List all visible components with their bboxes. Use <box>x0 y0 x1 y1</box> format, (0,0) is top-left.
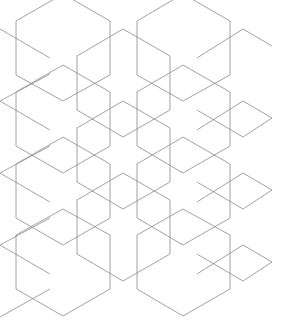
hexagon-outline <box>137 0 230 101</box>
hexagon-pattern-canvas <box>0 0 281 323</box>
pattern-line <box>0 146 50 173</box>
pattern-line <box>197 101 272 137</box>
pattern-line <box>197 173 272 209</box>
hexagon-outline <box>77 101 170 209</box>
hexagon-outline <box>77 173 170 281</box>
pattern-line <box>0 245 50 274</box>
hexagon-outline <box>137 65 230 173</box>
hexagon-outline <box>137 137 230 245</box>
pattern-line <box>0 218 50 245</box>
hexagon-outline <box>77 29 170 137</box>
hexagon-group <box>16 0 230 316</box>
pattern-line <box>0 173 50 202</box>
pattern-line <box>0 74 50 101</box>
pattern-line <box>0 29 50 58</box>
pattern-line <box>0 101 50 130</box>
pattern-line <box>0 289 50 317</box>
hexagon-outline <box>137 209 230 316</box>
pattern-line <box>197 29 272 58</box>
hexagon-outline <box>16 0 110 101</box>
pattern-line <box>197 245 272 281</box>
